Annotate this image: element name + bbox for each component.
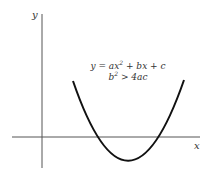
parabola-curve [73,80,184,161]
equation-line-2: b2 > 4ac [109,70,148,82]
x-axis-label: x [194,140,200,151]
quadratic-diagram: y x y = ax2 + bx + c b2 > 4ac [0,0,209,179]
equation-line-1: y = ax2 + bx + c [89,59,165,71]
y-axis-label: y [31,9,38,20]
